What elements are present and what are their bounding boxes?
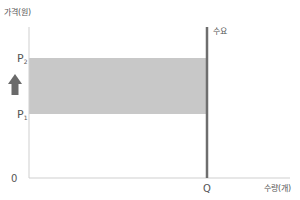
p2-sub: 2 — [24, 58, 28, 65]
price-quantity-diagram: 가격(원) 수량(개) 0 P2 P1 Q 수요 — [0, 0, 300, 200]
p1-label: P1 — [17, 108, 28, 121]
p2-label: P2 — [17, 52, 28, 65]
demand-label: 수요 — [213, 27, 227, 36]
arrow-up-icon — [8, 74, 22, 95]
q-label: Q — [203, 183, 211, 194]
p1-sub: 1 — [24, 114, 28, 121]
y-axis-label: 가격(원) — [4, 7, 31, 17]
shaded-revenue-area — [29, 58, 206, 114]
x-axis-label: 수량(개) — [264, 183, 291, 193]
origin-label: 0 — [11, 173, 17, 184]
